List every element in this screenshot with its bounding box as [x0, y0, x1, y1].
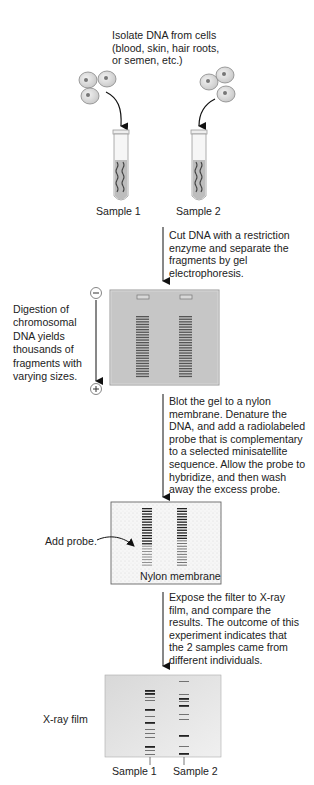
band	[179, 342, 192, 343]
band	[145, 729, 155, 730]
xray-film	[105, 675, 221, 757]
band	[145, 693, 155, 695]
band	[136, 324, 149, 325]
band	[179, 334, 192, 335]
band	[179, 694, 189, 695]
band	[179, 681, 189, 682]
band	[136, 371, 149, 372]
band	[142, 557, 152, 558]
band	[179, 358, 192, 359]
band	[136, 329, 149, 330]
band	[142, 535, 152, 536]
band	[177, 524, 187, 525]
band	[179, 316, 192, 317]
band	[142, 549, 152, 550]
band	[179, 376, 192, 377]
band	[142, 511, 152, 512]
band	[145, 709, 155, 711]
band	[145, 716, 155, 717]
band	[136, 339, 149, 340]
band	[145, 737, 155, 738]
band	[179, 321, 192, 322]
band	[136, 316, 149, 317]
band	[136, 342, 149, 343]
band	[136, 363, 149, 364]
test-tube-2-icon	[191, 130, 207, 200]
band	[179, 339, 192, 340]
band	[136, 365, 149, 366]
xray-film-label: X-ray film	[43, 713, 88, 725]
step-expose-text: Expose the filter to X-ray film, and com…	[169, 591, 299, 667]
film-sample-2-label: Sample 2	[173, 765, 218, 777]
band	[142, 546, 152, 547]
band	[177, 516, 187, 517]
band	[136, 332, 149, 333]
band	[136, 376, 149, 377]
band	[179, 719, 189, 720]
band	[177, 532, 187, 533]
film-sample-1-label: Sample 1	[112, 765, 157, 777]
step-isolate-text: Isolate DNA from cells (blood, skin, hai…	[112, 29, 219, 67]
sample-1-label: Sample 1	[96, 205, 141, 217]
band	[145, 697, 155, 698]
band	[145, 746, 155, 748]
sample-2-label: Sample 2	[176, 205, 221, 217]
step-blot-text: Blot the gel to a nylon membrane. Denatu…	[169, 395, 305, 496]
band	[179, 329, 192, 330]
nylon-membrane-label: Nylon membrane	[140, 570, 221, 582]
band	[179, 319, 192, 320]
band	[179, 714, 189, 715]
band	[136, 350, 149, 351]
band	[179, 365, 192, 366]
band	[142, 559, 152, 560]
minus-electrode-icon	[91, 288, 102, 299]
band	[136, 345, 149, 346]
arrow-to-tube-1-icon	[106, 92, 121, 126]
band	[177, 535, 187, 536]
band	[136, 355, 149, 356]
band	[142, 530, 152, 531]
band	[136, 337, 149, 338]
band	[177, 562, 187, 563]
band	[179, 363, 192, 364]
band	[179, 705, 189, 707]
agarose-gel	[110, 290, 219, 385]
band	[145, 722, 155, 724]
band	[177, 538, 187, 539]
band	[142, 562, 152, 563]
cells-sample-1-icon	[79, 71, 116, 104]
band	[136, 334, 149, 335]
band	[179, 701, 189, 702]
band	[142, 540, 152, 541]
band	[136, 368, 149, 369]
band	[142, 519, 152, 520]
band	[177, 540, 187, 541]
band	[177, 519, 187, 520]
band	[179, 332, 192, 333]
band	[179, 347, 192, 348]
band	[177, 530, 187, 531]
band	[177, 508, 187, 509]
band	[142, 554, 152, 555]
band	[177, 554, 187, 555]
band	[177, 565, 187, 566]
band	[179, 368, 192, 369]
band	[179, 360, 192, 361]
band	[179, 355, 192, 356]
band	[136, 360, 149, 361]
band	[179, 345, 192, 346]
band	[142, 532, 152, 533]
step-cut-text: Cut DNA with a restriction enzyme and se…	[169, 229, 290, 279]
band	[145, 754, 155, 755]
band	[136, 373, 149, 374]
band	[142, 551, 152, 552]
band	[145, 690, 155, 692]
band	[136, 347, 149, 348]
digestion-note-text: Digestion of chromosomal DNA yields thou…	[13, 303, 82, 383]
band	[179, 698, 189, 700]
band	[179, 352, 192, 353]
band	[142, 522, 152, 523]
band	[177, 522, 187, 523]
band	[145, 700, 155, 701]
band	[179, 753, 189, 755]
